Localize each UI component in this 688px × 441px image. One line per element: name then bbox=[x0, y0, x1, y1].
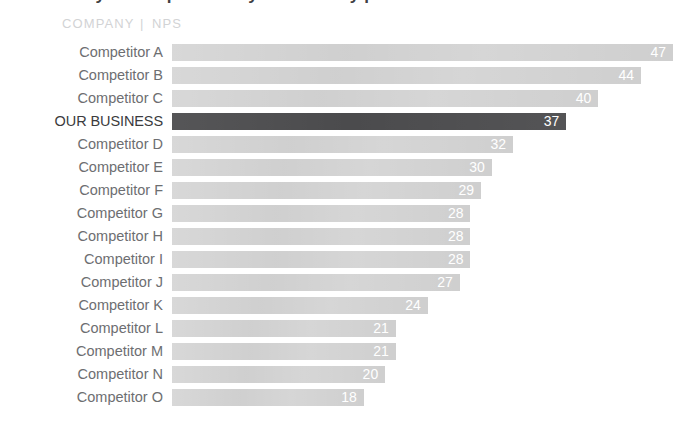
bar-value-label: 40 bbox=[576, 90, 592, 107]
bar-track: 47 bbox=[172, 44, 673, 61]
bar-track: 28 bbox=[172, 228, 470, 245]
chart-title-clipped: How do you compare with your industry pe… bbox=[0, 0, 688, 9]
row-label: Competitor I bbox=[0, 251, 163, 268]
row-label: Competitor C bbox=[0, 90, 163, 107]
bar-track: 21 bbox=[172, 320, 396, 337]
row-label: Competitor B bbox=[0, 67, 163, 84]
bar-track: 28 bbox=[172, 251, 470, 268]
bar-value-label: 28 bbox=[448, 251, 464, 268]
table-row: Competitor N20 bbox=[0, 366, 688, 389]
bar-track: 24 bbox=[172, 297, 428, 314]
bar-value-label: 21 bbox=[373, 343, 389, 360]
bar-value-label: 44 bbox=[618, 67, 634, 84]
table-row: Competitor A47 bbox=[0, 44, 688, 67]
bar-track: 28 bbox=[172, 205, 470, 222]
row-label: Competitor D bbox=[0, 136, 163, 153]
table-row: Competitor J27 bbox=[0, 274, 688, 297]
row-label: Competitor L bbox=[0, 320, 163, 337]
bar: 28 bbox=[172, 205, 470, 222]
column-header-separator: | bbox=[140, 16, 143, 31]
bar-value-label: 32 bbox=[491, 136, 507, 153]
row-label: Competitor F bbox=[0, 182, 163, 199]
bar: 47 bbox=[172, 44, 673, 61]
bar-rows-container: Competitor A47Competitor B44Competitor C… bbox=[0, 44, 688, 434]
column-header-row: COMPANY | NPS bbox=[0, 16, 688, 36]
bar: 27 bbox=[172, 274, 460, 291]
table-row: Competitor G28 bbox=[0, 205, 688, 228]
bar-track: 27 bbox=[172, 274, 460, 291]
bar-value-label: 28 bbox=[448, 228, 464, 245]
bar: 30 bbox=[172, 159, 492, 176]
bar: 28 bbox=[172, 251, 470, 268]
table-row: Competitor L21 bbox=[0, 320, 688, 343]
table-row: Competitor M21 bbox=[0, 343, 688, 366]
bar-track: 32 bbox=[172, 136, 513, 153]
bar: 40 bbox=[172, 90, 598, 107]
bar-value-label: 47 bbox=[650, 44, 666, 61]
table-row: Competitor C40 bbox=[0, 90, 688, 113]
row-label: Competitor H bbox=[0, 228, 163, 245]
table-row: Competitor H28 bbox=[0, 228, 688, 251]
bar-value-label: 37 bbox=[544, 113, 560, 130]
row-label: Competitor J bbox=[0, 274, 163, 291]
row-label: Competitor O bbox=[0, 389, 163, 406]
row-label: Competitor A bbox=[0, 44, 163, 61]
table-row: Competitor D32 bbox=[0, 136, 688, 159]
bar: 44 bbox=[172, 67, 641, 84]
bar-value-label: 28 bbox=[448, 205, 464, 222]
row-label: Competitor E bbox=[0, 159, 163, 176]
table-row: Competitor F29 bbox=[0, 182, 688, 205]
bar: 28 bbox=[172, 228, 470, 245]
bar: 32 bbox=[172, 136, 513, 153]
bar-value-label: 24 bbox=[405, 297, 421, 314]
bar-track: 20 bbox=[172, 366, 385, 383]
bar-track: 30 bbox=[172, 159, 492, 176]
column-header-company: COMPANY bbox=[62, 16, 134, 31]
row-label: Competitor G bbox=[0, 205, 163, 222]
bar: 20 bbox=[172, 366, 385, 383]
bar-track: 18 bbox=[172, 389, 364, 406]
column-header-nps: NPS bbox=[152, 16, 182, 31]
bar-highlight: 37 bbox=[172, 113, 566, 130]
bar-track: 40 bbox=[172, 90, 598, 107]
table-row: Competitor E30 bbox=[0, 159, 688, 182]
bar: 21 bbox=[172, 343, 396, 360]
bar-value-label: 18 bbox=[341, 389, 357, 406]
table-row: Competitor K24 bbox=[0, 297, 688, 320]
table-row: OUR BUSINESS37 bbox=[0, 113, 688, 136]
bar-track: 37 bbox=[172, 113, 566, 130]
row-label: Competitor M bbox=[0, 343, 163, 360]
bar: 21 bbox=[172, 320, 396, 337]
bar-value-label: 21 bbox=[373, 320, 389, 337]
bar: 24 bbox=[172, 297, 428, 314]
bar: 18 bbox=[172, 389, 364, 406]
table-row: Competitor I28 bbox=[0, 251, 688, 274]
bar-track: 44 bbox=[172, 67, 641, 84]
row-label: Competitor K bbox=[0, 297, 163, 314]
nps-benchmark-chart: How do you compare with your industry pe… bbox=[0, 0, 688, 441]
chart-title: How do you compare with your industry pe… bbox=[28, 0, 421, 5]
bar-value-label: 29 bbox=[459, 182, 475, 199]
table-row: Competitor O18 bbox=[0, 389, 688, 412]
row-label: Competitor N bbox=[0, 366, 163, 383]
row-label: OUR BUSINESS bbox=[0, 113, 163, 130]
bar-value-label: 20 bbox=[363, 366, 379, 383]
bar-value-label: 30 bbox=[469, 159, 485, 176]
bar-track: 21 bbox=[172, 343, 396, 360]
bar: 29 bbox=[172, 182, 481, 199]
bar-track: 29 bbox=[172, 182, 481, 199]
bar-value-label: 27 bbox=[437, 274, 453, 291]
table-row: Competitor B44 bbox=[0, 67, 688, 90]
